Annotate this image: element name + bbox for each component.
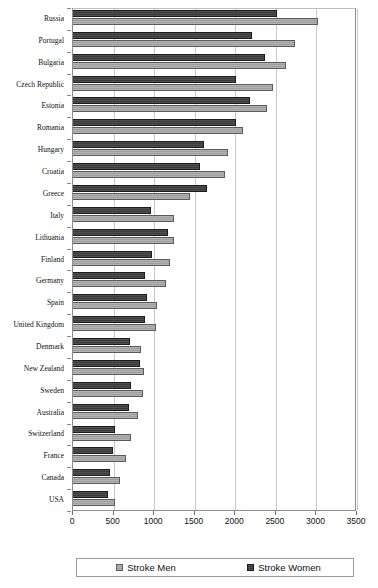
category-label-portugal: Portugal	[39, 36, 64, 45]
bar-group	[73, 403, 355, 425]
bar-stroke-men	[73, 84, 273, 91]
bar-stroke-women	[73, 316, 145, 323]
category-label-czech-republic: Czech Republic	[16, 80, 64, 89]
bar-stroke-men	[73, 62, 286, 69]
bar-group	[73, 228, 355, 250]
legend-item-stroke-women: Stroke Women	[215, 562, 353, 573]
bar-group	[73, 31, 355, 53]
bar-stroke-men	[73, 434, 131, 441]
category-label-france: France	[44, 451, 64, 460]
value-axis: 0500100015002000250030003500	[72, 511, 357, 533]
light-gray-swatch-icon	[116, 564, 123, 571]
bar-stroke-men	[73, 171, 225, 178]
bar-stroke-men	[73, 455, 126, 462]
category-axis: RussiaPortugalBulgariaCzech RepublicEsto…	[0, 8, 69, 511]
bar-group	[73, 184, 355, 206]
value-tick-2500	[275, 511, 276, 515]
bar-stroke-women	[73, 251, 152, 258]
bar-group	[73, 315, 355, 337]
bar-stroke-men	[73, 280, 166, 287]
category-tick	[67, 467, 71, 468]
value-tick-0	[72, 511, 73, 515]
dark-gray-swatch-icon	[247, 564, 254, 571]
category-label-germany: Germany	[36, 276, 64, 285]
bar-group	[73, 337, 355, 359]
value-tick-500	[113, 511, 114, 515]
legend-item-stroke-men: Stroke Men	[77, 562, 215, 573]
bar-stroke-men	[73, 499, 115, 506]
category-tick	[67, 183, 71, 184]
bar-stroke-men	[73, 412, 138, 419]
category-tick	[67, 445, 71, 446]
category-tick	[67, 336, 71, 337]
bar-stroke-men	[73, 324, 156, 331]
bar-stroke-women	[73, 491, 108, 498]
bar-stroke-women	[73, 32, 252, 39]
value-tick-label-500: 500	[105, 516, 119, 526]
bar-group	[73, 293, 355, 315]
bar-stroke-men	[73, 302, 157, 309]
category-label-sweden: Sweden	[40, 386, 64, 395]
bar-group	[73, 490, 355, 512]
category-label-greece: Greece	[43, 189, 64, 198]
bar-stroke-men	[73, 193, 190, 200]
bar-stroke-women	[73, 163, 200, 170]
bar-stroke-men	[73, 259, 170, 266]
bar-stroke-women	[73, 229, 168, 236]
category-label-spain: Spain	[47, 298, 64, 307]
bar-group	[73, 140, 355, 162]
bar-group	[73, 53, 355, 75]
category-label-switzerland: Switzerland	[28, 429, 64, 438]
category-tick	[67, 380, 71, 381]
category-tick	[67, 424, 71, 425]
bar-group	[73, 250, 355, 272]
bar-stroke-men	[73, 40, 295, 47]
bar-stroke-men	[73, 477, 120, 484]
bar-stroke-women	[73, 360, 140, 367]
value-tick-label-3500: 3500	[347, 516, 366, 526]
category-tick	[67, 314, 71, 315]
category-tick	[67, 205, 71, 206]
value-tick-2000	[234, 511, 235, 515]
category-label-estonia: Estonia	[42, 101, 65, 110]
bar-group	[73, 162, 355, 184]
category-label-italy: Italy	[50, 211, 64, 220]
bar-rows	[73, 9, 355, 510]
bar-stroke-men	[73, 215, 174, 222]
category-tick	[67, 511, 71, 512]
bar-stroke-women	[73, 185, 207, 192]
bar-group	[73, 468, 355, 490]
category-tick	[67, 30, 71, 31]
bar-stroke-women	[73, 119, 236, 126]
bar-stroke-women	[73, 447, 113, 454]
value-tick-label-2500: 2500	[265, 516, 284, 526]
category-label-usa: USA	[49, 495, 64, 504]
bar-stroke-women	[73, 469, 110, 476]
bar-group	[73, 206, 355, 228]
bar-group	[73, 9, 355, 31]
value-tick-3000	[315, 511, 316, 515]
bar-stroke-women	[73, 294, 147, 301]
category-label-finland: Finland	[41, 255, 64, 264]
value-tick-1500	[194, 511, 195, 515]
bar-group	[73, 118, 355, 140]
category-label-lithuania: Lithuania	[35, 233, 64, 242]
bar-stroke-women	[73, 426, 115, 433]
value-tick-label-3000: 3000	[306, 516, 325, 526]
category-label-croatia: Croatia	[42, 167, 64, 176]
bar-stroke-women	[73, 272, 145, 279]
bar-stroke-men	[73, 127, 243, 134]
category-tick	[67, 249, 71, 250]
category-tick	[67, 8, 71, 9]
category-label-canada: Canada	[42, 473, 65, 482]
value-tick-3500	[356, 511, 357, 515]
value-tick-label-2000: 2000	[225, 516, 244, 526]
category-label-united-kingdom: United Kingdom	[13, 320, 64, 329]
category-tick	[67, 227, 71, 228]
category-tick	[67, 489, 71, 490]
category-tick	[67, 117, 71, 118]
category-tick	[67, 161, 71, 162]
bar-stroke-men	[73, 237, 174, 244]
bar-group	[73, 425, 355, 447]
gridline-3500	[357, 9, 358, 510]
